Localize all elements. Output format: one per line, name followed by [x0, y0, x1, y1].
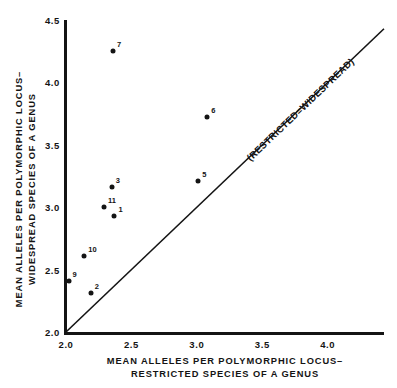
data-point-label: 2: [95, 282, 99, 291]
y-tick-label: 3.5: [45, 139, 60, 150]
data-point-label: 6: [211, 106, 215, 115]
scatter-plot-figure: (RESTRICTED=WIDESPREAD) 2.02.53.03.54.04…: [0, 0, 397, 388]
data-point: [196, 178, 201, 183]
y-axis-title: MEAN ALLELES PER POLYMORPHIC LOCUS– WIDE…: [13, 30, 39, 348]
data-point-label: 3: [116, 176, 120, 185]
data-point: [109, 185, 114, 190]
data-point: [88, 291, 93, 296]
data-point-label: 1: [118, 205, 122, 214]
data-point-label: 5: [202, 170, 206, 179]
data-point: [82, 253, 87, 258]
x-tick-label: 2.5: [124, 339, 139, 350]
plot-area: (RESTRICTED=WIDESPREAD) 2.02.53.03.54.04…: [66, 20, 384, 332]
y-tick-label: 3.0: [45, 202, 60, 213]
x-tick-label: 2.0: [58, 339, 73, 350]
data-point: [205, 115, 210, 120]
y-tick-label: 4.5: [45, 15, 60, 26]
y-tick-label: 2.0: [45, 327, 60, 338]
x-axis-title-line2: RESTRICTED SPECIES OF A GENUS: [66, 368, 384, 381]
data-point-label: 9: [73, 270, 77, 279]
data-point-label: 11: [108, 196, 116, 205]
y-axis-title-line1: MEAN ALLELES PER POLYMORPHIC LOCUS–: [14, 71, 24, 307]
x-tick-label: 3.0: [189, 339, 204, 350]
data-point: [112, 213, 117, 218]
data-point: [101, 205, 106, 210]
y-axis-title-line2: WIDESPREAD SPECIES OF A GENUS: [26, 30, 39, 348]
y-tick-label: 2.5: [45, 264, 60, 275]
x-axis-title: MEAN ALLELES PER POLYMORPHIC LOCUS– REST…: [66, 355, 384, 381]
data-point-label: 10: [88, 245, 96, 254]
x-tick-label: 4.0: [320, 339, 335, 350]
data-point: [66, 278, 71, 283]
data-point-label: 7: [117, 40, 121, 49]
y-tick-label: 4.0: [45, 77, 60, 88]
data-point: [111, 49, 116, 54]
x-tick-label: 3.5: [255, 339, 270, 350]
x-axis-title-line1: MEAN ALLELES PER POLYMORPHIC LOCUS–: [107, 356, 343, 366]
